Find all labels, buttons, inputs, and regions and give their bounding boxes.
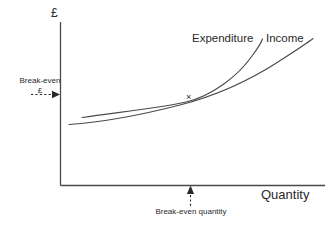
expenditure-curve <box>82 39 263 118</box>
x-axis-label: Quantity <box>261 188 309 202</box>
breakeven-value-annotation: Break-even £ <box>12 77 68 96</box>
intersection-cross-marker: × <box>186 93 191 102</box>
break-even-chart: £ Quantity Expenditure Income Break-even… <box>0 0 329 227</box>
y-axis-label: £ <box>51 7 58 20</box>
breakeven-value-line-2: £ <box>12 87 68 95</box>
breakeven-value-line-1: Break-even <box>20 76 61 85</box>
income-curve <box>69 39 313 125</box>
breakeven-quantity-annotation: Break-even quantity <box>146 208 236 216</box>
breakeven-quantity-arrowhead <box>187 186 194 195</box>
expenditure-series-label: Expenditure <box>192 32 253 44</box>
income-series-label: Income <box>266 32 304 44</box>
